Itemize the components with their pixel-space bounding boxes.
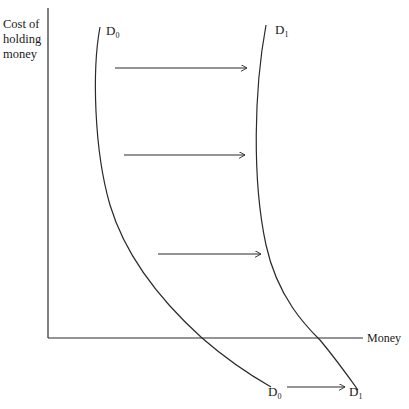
demand-curve-d1 <box>256 25 358 390</box>
diagram-canvas: Money D0 D1 D0 D1 <box>0 0 409 409</box>
demand-curve-d0 <box>95 27 271 387</box>
curve-label-d1-bottom: D1 <box>349 384 362 401</box>
curve-label-d0-bottom: D0 <box>268 384 281 401</box>
curve-label-d1-top: D1 <box>275 22 288 39</box>
x-axis-label: Money <box>367 331 401 345</box>
curve-label-d0-top: D0 <box>106 23 119 40</box>
